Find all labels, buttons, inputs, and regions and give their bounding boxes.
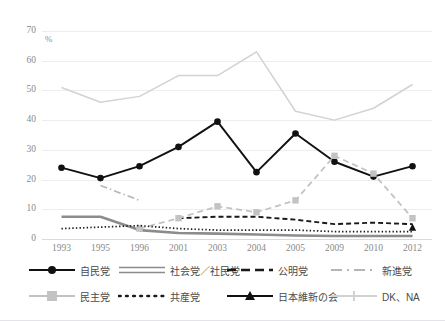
series-marker-0-5 bbox=[253, 169, 260, 176]
series-marker-0-4 bbox=[214, 118, 221, 125]
legend-item-DK、NA[interactable]: DK、NA bbox=[330, 284, 420, 308]
legend-label: 共産党 bbox=[170, 289, 200, 304]
legend-label: 公明党 bbox=[278, 263, 308, 278]
series-marker-0-1 bbox=[97, 175, 104, 182]
series-marker-0-2 bbox=[136, 163, 143, 170]
legend-item-公明党[interactable]: 公明党 bbox=[226, 258, 308, 282]
series-line-0 bbox=[62, 122, 413, 178]
line-marker-triangle-black-icon bbox=[226, 289, 274, 303]
legend-label: DK、NA bbox=[382, 289, 420, 304]
legend-item-共産党[interactable]: 共産党 bbox=[118, 284, 200, 308]
legend-label: 日本維新の会 bbox=[278, 289, 338, 304]
series-marker-0-9 bbox=[409, 163, 416, 170]
series-marker-0-3 bbox=[175, 144, 182, 151]
line-marker-square-gray-icon bbox=[28, 289, 76, 303]
line-dashdot-gray-icon bbox=[330, 263, 378, 277]
line-hollow-gray-icon bbox=[118, 263, 166, 277]
line-marker-plus-gray-icon bbox=[330, 289, 378, 303]
series-line-5 bbox=[62, 226, 413, 232]
series-marker-4-7 bbox=[331, 153, 337, 159]
chart-figure: —— —— —— ———— ——— ——— % 010203040506070 … bbox=[0, 0, 445, 321]
series-marker-4-5 bbox=[253, 209, 259, 215]
legend-label: 民主党 bbox=[80, 289, 110, 304]
series-marker-4-6 bbox=[292, 197, 298, 203]
chart-legend: 自民党社会党／社民党公明党新進党民主党共産党日本維新の会DK、NA bbox=[0, 258, 445, 318]
legend-label: 新進党 bbox=[382, 263, 412, 278]
legend-row-2: 民主党共産党日本維新の会DK、NA bbox=[0, 284, 445, 308]
series-line-2 bbox=[179, 217, 413, 224]
line-marker-circle-black-icon bbox=[28, 263, 76, 277]
legend-label: 自民党 bbox=[80, 263, 110, 278]
series-line-3 bbox=[101, 186, 140, 201]
series-marker-0-7 bbox=[331, 158, 338, 165]
series-marker-4-9 bbox=[409, 215, 415, 221]
legend-item-民主党[interactable]: 民主党 bbox=[28, 284, 110, 308]
series-line-7 bbox=[62, 52, 413, 120]
series-marker-6-9 bbox=[409, 224, 416, 231]
legend-item-自民党[interactable]: 自民党 bbox=[28, 258, 110, 282]
legend-item-新進党[interactable]: 新進党 bbox=[330, 258, 412, 282]
legend-item-社会党／社民党[interactable]: 社会党／社民党 bbox=[118, 258, 240, 282]
legend-row-1: 自民党社会党／社民党公明党新進党 bbox=[0, 258, 445, 282]
legend-item-日本維新の会[interactable]: 日本維新の会 bbox=[226, 284, 338, 308]
series-marker-4-4 bbox=[214, 203, 220, 209]
series-marker-0-6 bbox=[292, 130, 299, 137]
series-line-1 bbox=[62, 217, 413, 236]
series-marker-4-3 bbox=[175, 215, 181, 221]
series-marker-0-0 bbox=[58, 164, 65, 171]
line-dashed-black-icon bbox=[226, 263, 274, 277]
line-dotted-black-icon bbox=[118, 289, 166, 303]
series-marker-4-8 bbox=[370, 170, 376, 176]
